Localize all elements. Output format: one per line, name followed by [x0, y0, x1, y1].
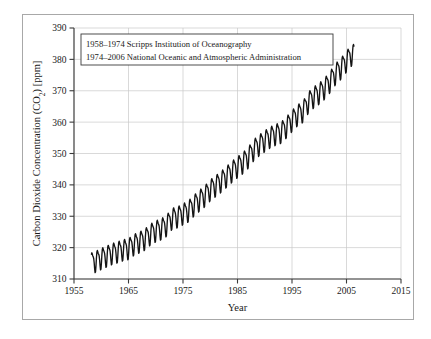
data-series-layer: [91, 44, 354, 272]
x-tick-label: 2015: [392, 286, 411, 296]
x-axis-title: Year: [228, 302, 248, 313]
x-tick-label: 1955: [65, 286, 84, 296]
x-tick-label: 1985: [228, 286, 247, 296]
legend-entry-scripps: 1958–1974 Scripps Institution of Oceanog…: [86, 39, 252, 49]
y-tick-label: 390: [52, 23, 67, 33]
figure-frame: 3103203303403503603703803901955196519751…: [22, 14, 414, 320]
y-tick-label: 360: [52, 118, 67, 128]
y-tick-label: 350: [52, 149, 67, 159]
y-axis-title: Carbon Dioxide Concentration (CO2) [ppm]: [31, 61, 47, 247]
svg-text:Carbon Dioxide Concentration (: Carbon Dioxide Concentration (CO2) [ppm]: [31, 61, 47, 247]
chart-legend: 1958–1974 Scripps Institution of Oceanog…: [81, 34, 333, 65]
y-tick-label: 330: [52, 212, 67, 222]
x-tick-label: 2005: [337, 286, 356, 296]
x-tick-label: 1995: [283, 286, 302, 296]
y-tick-label: 340: [52, 180, 67, 190]
legend-entry-noaa: 1974–2006 National Oceanic and Atmospher…: [86, 52, 302, 62]
co2-concentration-chart: 3103203303403503603703803901955196519751…: [23, 15, 413, 319]
y-tick-label: 380: [52, 55, 67, 65]
x-tick-label: 1965: [119, 286, 138, 296]
x-tick-label: 1975: [174, 286, 193, 296]
y-tick-label: 370: [52, 86, 67, 96]
co2-data-curve: [91, 44, 354, 272]
y-tick-label: 320: [52, 243, 67, 253]
y-tick-label: 310: [52, 274, 67, 284]
